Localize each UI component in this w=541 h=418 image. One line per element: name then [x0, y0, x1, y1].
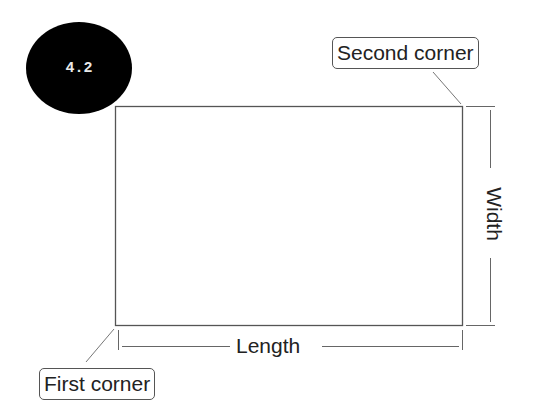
second-corner-label: Second corner [337, 41, 474, 64]
first-corner-leader [86, 329, 114, 362]
length-label: Length [232, 334, 304, 358]
rectangle [116, 107, 463, 326]
second-corner-callout: Second corner [332, 37, 479, 69]
first-corner-label: First corner [44, 372, 150, 395]
second-corner-leader [433, 72, 461, 104]
width-label: Width [482, 180, 506, 248]
first-corner-callout: First corner [39, 368, 155, 400]
